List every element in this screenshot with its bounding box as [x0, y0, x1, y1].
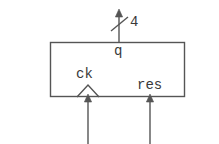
q-output-arrowhead [115, 9, 122, 17]
bus-width-label: 4 [130, 15, 138, 29]
port-label-res: res [137, 78, 162, 92]
diagram-canvas: 4 q ck res [0, 0, 219, 144]
port-label-ck: ck [76, 67, 93, 81]
diagram-svg [0, 0, 219, 144]
res-input-arrowhead [146, 94, 153, 102]
ck-input-arrowhead [84, 94, 91, 102]
port-label-q: q [114, 44, 122, 58]
